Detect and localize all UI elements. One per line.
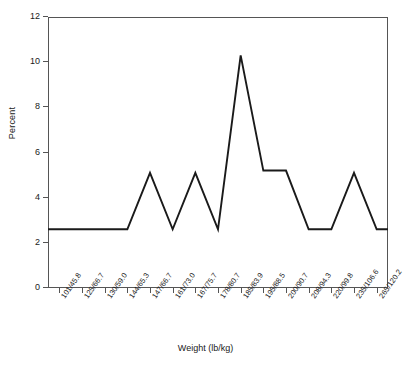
chart-container: Percent 024681012 101/45.8125/66.7130/59… [0,0,411,365]
y-tick-mark [43,242,48,243]
y-tick-mark [43,287,48,288]
y-tick-label: 8 [35,101,40,112]
plot-area [48,17,388,288]
y-tick-label: 10 [30,56,40,67]
y-tick-label: 0 [35,282,40,293]
y-tick-mark [43,197,48,198]
y-tick-label: 12 [30,11,40,22]
y-tick-mark [43,152,48,153]
y-axis-title: Percent [7,83,17,163]
y-tick-mark [43,106,48,107]
y-tick-label: 6 [35,147,40,158]
y-tick-mark [43,16,48,17]
y-tick-mark [43,61,48,62]
y-tick-label: 4 [35,192,40,203]
y-tick-label: 2 [35,237,40,248]
x-axis-title: Weight (lb/kg) [0,343,411,353]
